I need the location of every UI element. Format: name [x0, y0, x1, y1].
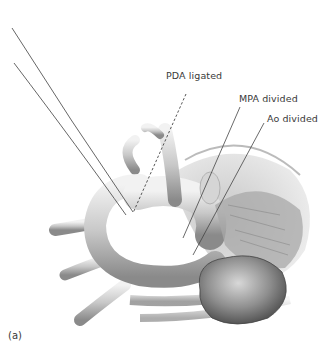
label-pda-ligated: PDA ligated	[166, 70, 222, 81]
suture-line	[14, 63, 126, 215]
anatomy-drawing	[0, 0, 328, 352]
panel-label: (a)	[8, 330, 22, 341]
surgical-illustration: PDA ligated MPA divided Ao divided (a)	[0, 0, 328, 352]
label-ao-divided: Ao divided	[267, 113, 318, 124]
label-mpa-divided: MPA divided	[239, 93, 298, 104]
heart	[199, 256, 286, 324]
